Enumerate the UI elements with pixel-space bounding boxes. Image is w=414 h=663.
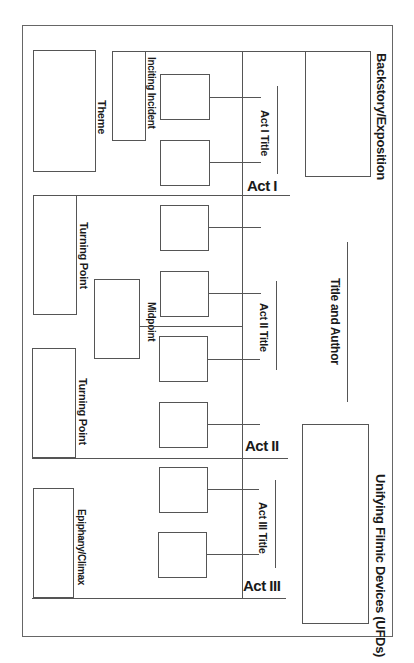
act-1-scene-connector-2: [209, 162, 261, 163]
act-2-scene-connector-4: [207, 424, 260, 425]
inciting-incident-box: [112, 51, 146, 141]
act-2-label: Act II: [245, 437, 279, 454]
turning-point-2-label: Turning Point: [77, 378, 89, 445]
timeline-spine: [242, 51, 243, 598]
act-2-title-line: [276, 281, 277, 370]
act-3-scene-box-1: [159, 467, 208, 513]
climax-label: Epiphany/Climax: [76, 509, 87, 585]
timeline-top-line: [112, 51, 370, 52]
turning-point-1-label: Turning Point: [78, 222, 90, 289]
midpoint-box: [94, 279, 140, 359]
inciting-incident-label: Inciting Incident: [146, 57, 157, 129]
act-1-scene-box-1: [160, 74, 210, 120]
act-3-scene-connector-1: [207, 489, 259, 490]
turning-point-2-box: [32, 348, 76, 458]
act-3-divider: [32, 598, 286, 599]
title-author-label: Title and Author: [328, 278, 342, 365]
ufds-label: Unifying Filmic Devices (UFDs): [373, 474, 388, 657]
theme-label: Theme: [96, 100, 108, 134]
act-1-scene-box-2: [160, 140, 210, 186]
act-2-scene-connector-3: [207, 359, 260, 360]
act-2-scene-connector-1: [208, 227, 261, 228]
backstory-box: [305, 51, 371, 177]
act-2-scene-connector-2: [208, 293, 261, 294]
climax-box: [33, 488, 74, 598]
title-author-line: [347, 242, 348, 402]
act-3-label: Act III: [243, 577, 280, 594]
ufds-box: [302, 424, 369, 624]
turning-point-1-box: [33, 195, 77, 315]
act-1-title-line: [277, 86, 278, 174]
midpoint-connector: [140, 326, 242, 327]
act-2-divider: [32, 458, 288, 459]
theme-box: [33, 50, 96, 172]
midpoint-label: Midpoint: [146, 302, 157, 341]
act-2-scene-box-4: [159, 402, 208, 448]
act-1-title-label: Act I Title: [259, 110, 271, 156]
act-1-label: Act I: [247, 177, 277, 194]
act-3-title-line: [275, 480, 276, 568]
act-2-scene-box-3: [159, 336, 208, 382]
act-2-scene-box-2: [160, 271, 209, 317]
act-2-scene-box-1: [160, 205, 209, 251]
act-2-title-label: Act II Title: [258, 303, 270, 352]
backstory-label: Backstory/Exposition: [374, 53, 389, 180]
act-3-scene-box-2: [158, 532, 207, 578]
act-3-scene-connector-2: [206, 554, 259, 555]
act-1-scene-connector-1: [209, 97, 261, 98]
act-3-title-label: Act III Title: [257, 502, 269, 554]
